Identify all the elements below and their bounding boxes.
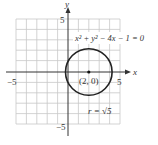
- circle-graph: x y −5 5 5 −5 x² + y² − 4x − 1 = 0 (2, 0…: [0, 0, 158, 145]
- equation-label: x² + y² − 4x − 1 = 0: [74, 33, 145, 43]
- center-point: [87, 70, 90, 73]
- y-tick-neg5: −5: [56, 122, 66, 132]
- center-label: (2, 0): [79, 76, 99, 86]
- x-axis-arrow-icon: [125, 70, 131, 75]
- radius-label: r = √5: [88, 106, 112, 116]
- x-tick-neg5: −5: [7, 77, 17, 87]
- x-axis-label: x: [132, 67, 137, 77]
- y-tick-5: 5: [60, 15, 65, 25]
- y-axis-label: y: [64, 0, 69, 9]
- x-tick-5: 5: [117, 77, 122, 87]
